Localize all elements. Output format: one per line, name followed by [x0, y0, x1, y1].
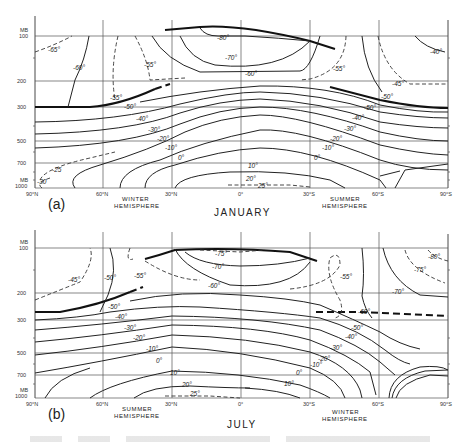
- svg-text:-50°: -50°: [351, 324, 363, 331]
- contour-m55: [113, 36, 118, 100]
- tropopause-line: [145, 249, 317, 261]
- svg-text:25°: 25°: [257, 182, 268, 189]
- figure-caption-cut-off: [30, 436, 430, 442]
- svg-text:-30: -30: [37, 178, 47, 185]
- svg-text:90°S: 90°S: [440, 401, 452, 407]
- svg-text:0°: 0°: [238, 191, 243, 197]
- contour-polar: [392, 370, 448, 398]
- hemisphere-label: SUMMER: [122, 406, 152, 412]
- svg-text:60°N: 60°N: [96, 401, 108, 407]
- hemisphere-label: HEMISPHERE: [114, 413, 160, 419]
- svg-text:1000: 1000: [15, 183, 27, 189]
- contour-m50: [130, 293, 420, 349]
- month-title-january: JANUARY: [214, 207, 271, 218]
- svg-text:-80°: -80°: [217, 34, 229, 41]
- svg-text:200: 200: [17, 290, 26, 296]
- svg-text:-30°: -30°: [344, 125, 356, 132]
- svg-text:20°: 20°: [245, 175, 256, 182]
- svg-text:-70°: -70°: [392, 288, 404, 295]
- month-title-july: JULY: [227, 419, 257, 430]
- panel-label-a: (a): [48, 196, 65, 212]
- latitude-axis-labels-a: 90°N 60°N 30°N 0° 30°S 60°S 90°S: [26, 191, 452, 197]
- svg-text:300: 300: [17, 317, 26, 323]
- svg-text:0°: 0°: [238, 401, 243, 407]
- svg-text:-55°: -55°: [134, 272, 146, 279]
- svg-text:60°S: 60°S: [372, 191, 384, 197]
- svg-text:200: 200: [17, 78, 26, 84]
- svg-text:25°: 25°: [189, 390, 200, 397]
- contour-m45: [35, 248, 91, 300]
- contour-m70: [185, 252, 310, 266]
- svg-text:-30°: -30°: [148, 126, 160, 133]
- svg-text:90°S: 90°S: [440, 191, 452, 197]
- svg-text:-50°: -50°: [124, 103, 136, 110]
- svg-text:1000: 1000: [15, 393, 27, 399]
- svg-text:0°: 0°: [156, 357, 163, 364]
- svg-text:-25: -25: [52, 166, 62, 173]
- svg-text:10°: 10°: [170, 369, 180, 376]
- svg-text:-60°: -60°: [208, 282, 220, 289]
- contour-m60: [68, 36, 89, 107]
- contour-25: [228, 185, 310, 187]
- svg-text:-30°: -30°: [124, 324, 136, 331]
- svg-text:-40°: -40°: [115, 313, 127, 320]
- svg-text:-45°: -45°: [392, 80, 404, 87]
- tropopause-break: [130, 287, 143, 292]
- svg-text:-10°: -10°: [322, 144, 334, 151]
- svg-text:-40°: -40°: [136, 115, 148, 122]
- svg-text:300: 300: [17, 104, 26, 110]
- svg-text:-70°: -70°: [212, 263, 224, 270]
- contour-polar: [395, 164, 448, 188]
- svg-text:-40°: -40°: [352, 114, 364, 121]
- svg-text:-75°: -75°: [414, 266, 426, 273]
- svg-text:-20°: -20°: [157, 135, 169, 142]
- svg-text:10°: 10°: [284, 380, 294, 387]
- svg-text:0°: 0°: [178, 154, 185, 161]
- contour-polar: [45, 368, 90, 398]
- hemisphere-label: SUMMER: [330, 196, 360, 202]
- contour-10: [245, 388, 300, 398]
- pressure-gridlines: [35, 36, 448, 188]
- svg-text:0°: 0°: [314, 154, 321, 161]
- svg-text:60°S: 60°S: [372, 401, 384, 407]
- svg-text:30°N: 30°N: [165, 401, 177, 407]
- contour-m55: [145, 261, 200, 280]
- svg-text:-20°: -20°: [133, 334, 145, 341]
- contour-polar: [380, 171, 400, 176]
- svg-text:-40°: -40°: [345, 333, 357, 340]
- svg-text:500: 500: [17, 350, 26, 356]
- svg-text:-60°: -60°: [245, 70, 257, 77]
- svg-text:-50°: -50°: [104, 274, 116, 281]
- svg-text:-70°: -70°: [225, 54, 237, 61]
- svg-text:30°S: 30°S: [303, 191, 315, 197]
- svg-text:0°: 0°: [296, 369, 303, 376]
- svg-text:-55°: -55°: [144, 61, 156, 68]
- svg-text:10°: 10°: [248, 162, 258, 169]
- svg-text:90°N: 90°N: [26, 191, 38, 197]
- hemisphere-label: WINTER: [122, 196, 149, 202]
- svg-text:-10°: -10°: [146, 345, 158, 352]
- latitude-axis-labels-b: 90°N 60°N 30°N 0° 30°S 60°S 90°S: [26, 401, 452, 407]
- contour-polar: [396, 375, 448, 398]
- svg-text:-50°: -50°: [381, 93, 393, 100]
- svg-text:90°N: 90°N: [26, 401, 38, 407]
- svg-text:-10°: -10°: [165, 144, 177, 151]
- hemisphere-label: WINTER: [332, 409, 359, 415]
- svg-text:20°: 20°: [181, 381, 192, 388]
- svg-text:700: 700: [17, 160, 26, 166]
- svg-text:-55°: -55°: [340, 273, 352, 280]
- tropopause-break: [316, 312, 448, 316]
- contour-m50: [140, 86, 448, 112]
- contour-0: [120, 130, 448, 188]
- svg-text:-45°: -45°: [68, 276, 80, 283]
- svg-text:-80°: -80°: [428, 253, 440, 260]
- svg-text:100: 100: [19, 245, 28, 251]
- svg-text:30°S: 30°S: [303, 401, 315, 407]
- contour-m55: [290, 255, 342, 318]
- temperature-cross-section-figure: -65° -60° -55° -55° -80° -70° -60° -55° …: [0, 0, 459, 442]
- svg-text:-40°: -40°: [430, 48, 442, 55]
- pressure-axis-labels-a: MB 100 200 300 500 700 MB 1000: [15, 27, 29, 189]
- svg-text:-60°: -60°: [358, 308, 370, 315]
- svg-text:-20°: -20°: [330, 135, 342, 142]
- svg-text:500: 500: [17, 138, 26, 144]
